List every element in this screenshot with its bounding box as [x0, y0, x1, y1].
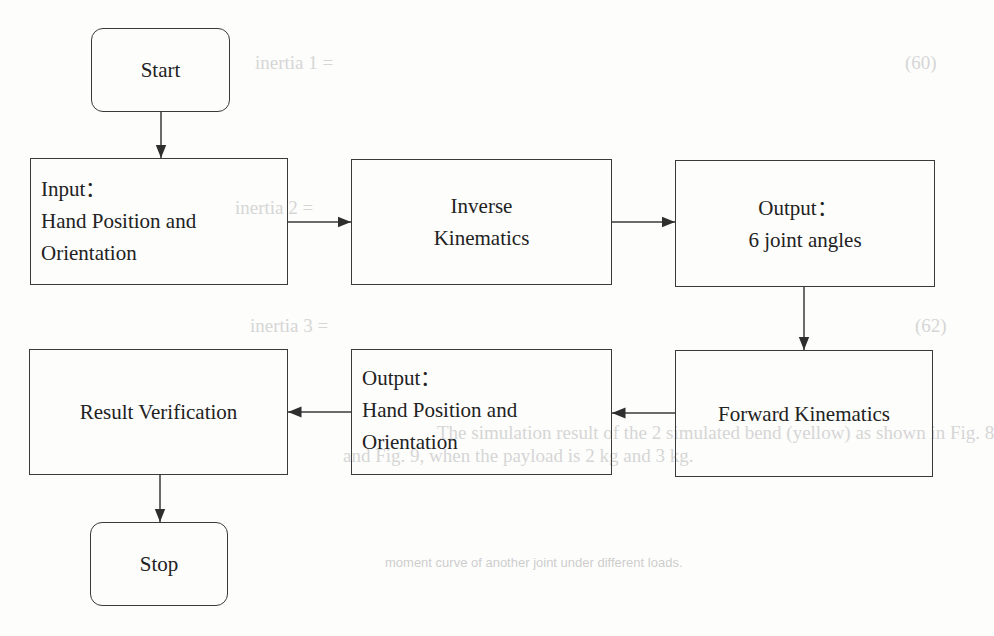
joint-output-line-2: 6 joint angles [748, 224, 861, 256]
input-line-1: Input： [41, 173, 287, 205]
inverse-line-1: Inverse [451, 190, 513, 222]
hand-output-line-2: Hand Position and [362, 394, 611, 426]
start-label: Start [141, 54, 181, 86]
verification-label: Result Verification [80, 396, 238, 428]
inverse-kinematics-node: Inverse Kinematics [351, 159, 612, 285]
stop-label: Stop [140, 548, 179, 580]
forward-kinematics-node: Forward Kinematics [675, 350, 933, 477]
result-verification-node: Result Verification [29, 349, 288, 475]
inverse-line-2: Kinematics [434, 222, 530, 254]
input-line-3: Orientation [41, 237, 287, 269]
input-node: Input： Hand Position and Orientation [30, 158, 288, 285]
start-node: Start [91, 28, 230, 112]
input-line-2: Hand Position and [41, 205, 287, 237]
forward-label: Forward Kinematics [718, 398, 890, 430]
hand-output-node: Output： Hand Position and Orientation [351, 349, 612, 475]
hand-output-line-1: Output： [362, 362, 611, 394]
joint-angles-output-node: Output： 6 joint angles [675, 160, 935, 287]
joint-output-line-1: Output： [758, 192, 837, 224]
hand-output-line-3: Orientation [362, 426, 611, 458]
stop-node: Stop [90, 522, 228, 606]
